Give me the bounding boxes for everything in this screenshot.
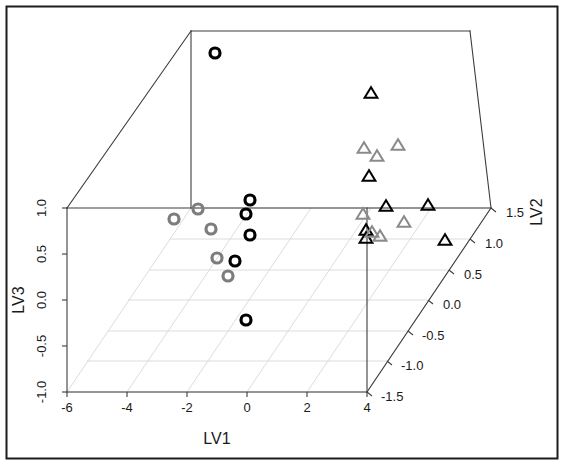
figure-container: 1.0 0.5 0.0 -0.5 -1.0 -6 -4 -2 0 2 4 1.5… bbox=[0, 0, 564, 469]
lv3-tick-label: 0.5 bbox=[34, 245, 49, 263]
lv1-tick-label: -4 bbox=[121, 400, 133, 415]
lv3-tick-label: -0.5 bbox=[34, 335, 49, 357]
lv2-tick-label: -1.0 bbox=[401, 358, 423, 373]
lv1-tick-label: -6 bbox=[61, 400, 73, 415]
lv1-tick-label: 2 bbox=[303, 400, 310, 415]
lv3-tick-label: 1.0 bbox=[34, 199, 49, 217]
lv2-tick-label: 1.0 bbox=[485, 236, 503, 251]
lv1-tick-label: 4 bbox=[363, 400, 370, 415]
lv2-tick-label: -0.5 bbox=[422, 328, 444, 343]
lv1-tick-label: -2 bbox=[181, 400, 193, 415]
lv2-tick-label: -1.5 bbox=[381, 389, 403, 404]
lv2-tick-label: 1.5 bbox=[506, 205, 524, 220]
lv2-tick-label: 0.5 bbox=[464, 267, 482, 282]
lv1-tick-label: 0 bbox=[243, 400, 250, 415]
scatter-plot-3d: 1.0 0.5 0.0 -0.5 -1.0 -6 -4 -2 0 2 4 1.5… bbox=[0, 0, 564, 469]
lv3-axis-title: LV3 bbox=[10, 286, 27, 313]
lv3-tick-label: 0.0 bbox=[34, 291, 49, 309]
lv2-tick-label: 0.0 bbox=[443, 297, 461, 312]
lv2-axis-title: LV2 bbox=[528, 198, 545, 225]
lv1-axis-title: LV1 bbox=[203, 430, 230, 447]
lv3-tick-label: -1.0 bbox=[34, 381, 49, 403]
